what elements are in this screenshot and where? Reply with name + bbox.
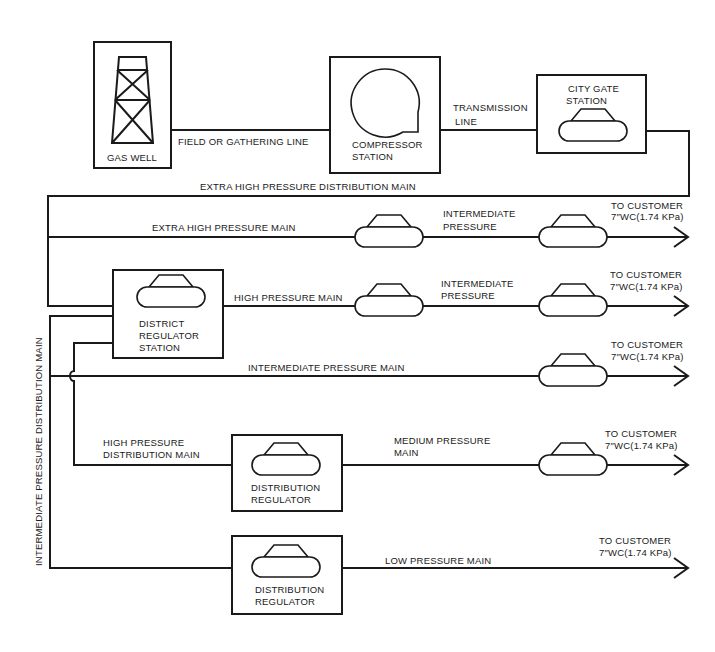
customer-5-label-2: 7″WC(1.74 KPa) bbox=[599, 547, 672, 558]
regulator-icon bbox=[539, 284, 607, 316]
high-dist-main-label-2: DISTRIBUTION MAIN bbox=[103, 449, 200, 460]
customer-2-label-1: TO CUSTOMER bbox=[610, 269, 682, 280]
district-regulator-station-node: DISTRICT REGULATOR STATION bbox=[113, 270, 223, 358]
extra-high-dist-main-label: EXTRA HIGH PRESSURE DISTRIBUTION MAIN bbox=[200, 181, 416, 192]
district-label-1: DISTRICT bbox=[139, 318, 184, 329]
field-gathering-line-label: FIELD OR GATHERING LINE bbox=[178, 136, 309, 147]
compressor-icon bbox=[351, 69, 419, 137]
intermediate-1-label-1: INTERMEDIATE bbox=[443, 208, 515, 219]
compressor-station-node: COMPRESSOR STATION bbox=[330, 57, 440, 173]
distribution-regulator-1-node: DISTRIBUTION REGULATOR bbox=[232, 435, 342, 511]
distribution-regulator-2-node: DISTRIBUTION REGULATOR bbox=[232, 536, 342, 614]
city-gate-label-2: STATION bbox=[566, 95, 607, 106]
dist-reg-2-label-2: REGULATOR bbox=[255, 596, 315, 607]
regulator-icon bbox=[539, 354, 607, 386]
regulator-icon bbox=[539, 215, 607, 247]
low-main-label: LOW PRESSURE MAIN bbox=[385, 555, 491, 566]
city-gate-station-node: CITY GATE STATION bbox=[537, 75, 646, 153]
intermediate-2-label-1: INTERMEDIATE bbox=[441, 278, 513, 289]
intermediate-main-label: INTERMEDIATE PRESSURE MAIN bbox=[248, 362, 405, 373]
customer-2-label-2: 7″WC(1.74 KPa) bbox=[610, 281, 683, 292]
regulator-icon bbox=[539, 443, 607, 475]
vertical-intermediate-dist-main-label: INTERMEDIATE PRESSURE DISTRIBUTION MAIN bbox=[33, 337, 44, 566]
gas-distribution-diagram: GAS WELL FIELD OR GATHERING LINE COMPRES… bbox=[0, 0, 715, 652]
transmission-label-2: LINE bbox=[455, 116, 477, 127]
medium-main-label-1: MEDIUM PRESSURE bbox=[394, 435, 490, 446]
customer-5-label-1: TO CUSTOMER bbox=[599, 535, 671, 546]
extra-high-main-label: EXTRA HIGH PRESSURE MAIN bbox=[152, 222, 296, 233]
regulator-icon bbox=[355, 215, 423, 247]
regulator-icon bbox=[355, 284, 423, 316]
city-gate-label-1: CITY GATE bbox=[568, 83, 619, 94]
customer-3-label-1: TO CUSTOMER bbox=[611, 339, 683, 350]
customer-4-label-1: TO CUSTOMER bbox=[605, 428, 677, 439]
district-label-3: STATION bbox=[139, 342, 180, 353]
intermediate-1-label-2: PRESSURE bbox=[443, 221, 497, 232]
compressor-label-1: COMPRESSOR bbox=[352, 139, 423, 150]
dist-reg-1-label-2: REGULATOR bbox=[251, 494, 311, 505]
gas-well-node: GAS WELL bbox=[94, 42, 171, 168]
medium-main-label-2: MAIN bbox=[394, 447, 419, 458]
customer-1-label-2: 7″WC(1.74 KPa) bbox=[611, 211, 684, 222]
high-dist-main-label-1: HIGH PRESSURE bbox=[103, 437, 184, 448]
district-label-2: REGULATOR bbox=[139, 330, 199, 341]
intermediate-2-label-2: PRESSURE bbox=[441, 290, 495, 301]
customer-1-label-1: TO CUSTOMER bbox=[611, 200, 683, 211]
high-main-label: HIGH PRESSURE MAIN bbox=[234, 292, 343, 303]
customer-4-label-2: 7″WC(1.74 KPa) bbox=[605, 440, 678, 451]
transmission-label-1: TRANSMISSION bbox=[453, 102, 528, 113]
gas-well-label: GAS WELL bbox=[107, 152, 157, 163]
compressor-label-2: STATION bbox=[352, 151, 393, 162]
dist-reg-2-label-1: DISTRIBUTION bbox=[255, 584, 324, 595]
dist-reg-1-label-1: DISTRIBUTION bbox=[251, 482, 320, 493]
customer-3-label-2: 7″WC(1.74 KPa) bbox=[611, 351, 684, 362]
